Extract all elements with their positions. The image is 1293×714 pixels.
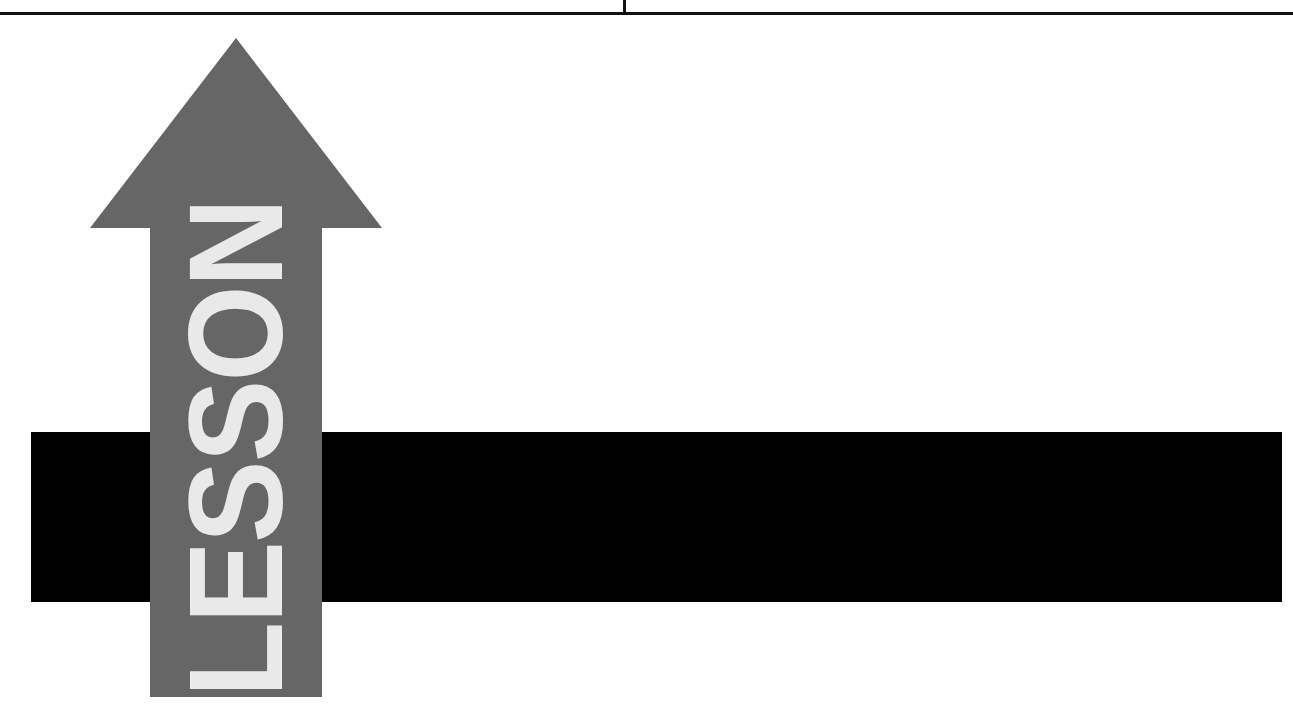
up-arrow-icon <box>0 0 1293 714</box>
banner-canvas: LESSON <box>0 0 1293 714</box>
